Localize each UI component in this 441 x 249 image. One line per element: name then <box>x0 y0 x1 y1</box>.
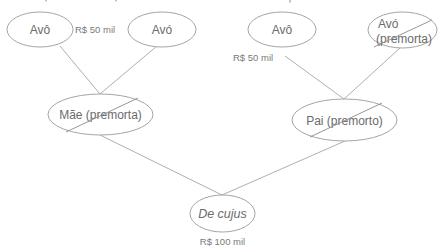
edge-avo-materno-mae <box>60 46 100 94</box>
edge-avo-materna-mae <box>100 46 157 94</box>
node-pai: Pai (premorto) <box>292 99 397 141</box>
node-label: Avô <box>272 23 293 37</box>
node-label: De cujus <box>198 207 247 221</box>
value-label-avo-paterno: R$ 50 mil <box>233 52 273 63</box>
edge-avo-paterno-pai <box>285 56 344 99</box>
value-label-avo-materno: R$ 50 mil <box>75 24 115 35</box>
edge-avo-paterna-pai <box>344 48 400 99</box>
node-mae: Mãe (premorta) <box>48 94 153 135</box>
node-label: Mãe (premorta) <box>59 108 142 122</box>
edge-pai-de-cujus <box>222 141 345 195</box>
family-tree-diagram: Avô R$ 50 mil Avó Avô R$ 50 mil Avó (pre… <box>0 0 441 249</box>
node-de-cujus: De cujus <box>190 195 255 232</box>
node-label: Avô <box>30 23 51 37</box>
node-avo-materna: Avó <box>128 12 196 47</box>
node-label-line1: Avó <box>378 17 399 31</box>
node-avo-materno: Avô <box>7 12 73 47</box>
edge-mae-de-cujus <box>100 135 222 195</box>
node-avo-paterna: Avó (premorta) <box>368 12 437 48</box>
node-avo-paterno: Avô <box>248 12 316 47</box>
node-label: Avó <box>152 23 173 37</box>
value-label-de-cujus: R$ 100 mil <box>200 236 245 247</box>
node-label-line2: (premorta) <box>376 32 432 46</box>
